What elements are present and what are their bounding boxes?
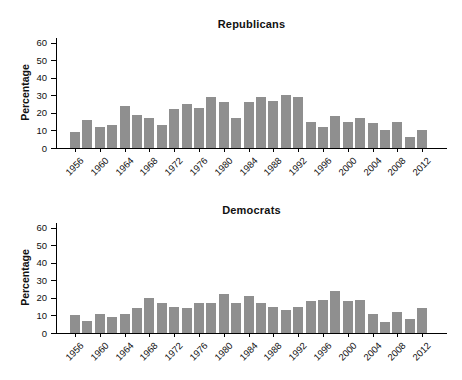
y-tick-label: 0 — [15, 328, 47, 340]
bar-1994 — [306, 301, 316, 333]
y-tick-mark — [51, 228, 56, 229]
bar-1996 — [318, 300, 328, 333]
bar-1964 — [120, 314, 130, 333]
bar-2000 — [343, 301, 353, 333]
x-axis-line — [56, 333, 447, 334]
x-tick-mark — [224, 333, 225, 337]
y-axis-line — [56, 223, 57, 333]
y-tick-mark — [51, 263, 56, 264]
x-tick-mark — [199, 333, 200, 337]
bar-1976 — [194, 303, 204, 333]
bar-1968 — [144, 298, 154, 333]
bar-1990 — [281, 310, 291, 333]
y-tick-label: 10 — [15, 310, 47, 322]
y-tick-mark — [51, 298, 56, 299]
bar-2010 — [405, 319, 415, 333]
x-tick-mark — [149, 333, 150, 337]
bar-1998 — [330, 291, 340, 333]
x-tick-mark — [397, 333, 398, 337]
y-tick-mark — [51, 315, 56, 316]
x-tick-label: 2012 — [401, 340, 434, 373]
bar-1980 — [219, 294, 229, 333]
bar-2004 — [368, 314, 378, 333]
y-tick-mark — [51, 280, 56, 281]
x-tick-mark — [348, 333, 349, 337]
bar-1966 — [132, 308, 142, 333]
x-tick-mark — [174, 333, 175, 337]
x-tick-mark — [75, 333, 76, 337]
bar-2008 — [392, 312, 402, 333]
bar-1972 — [169, 307, 179, 333]
y-tick-label: 60 — [15, 222, 47, 234]
bar-1970 — [157, 303, 167, 333]
bar-1958 — [82, 321, 92, 333]
bar-chart-figure: Republicans Percentage 01020304050601956… — [0, 0, 462, 380]
bar-1978 — [206, 303, 216, 333]
x-tick-mark — [100, 333, 101, 337]
x-tick-mark — [125, 333, 126, 337]
bar-1986 — [256, 303, 266, 333]
x-tick-mark — [323, 333, 324, 337]
x-tick-mark — [273, 333, 274, 337]
bar-2006 — [380, 322, 390, 333]
bar-1984 — [244, 296, 254, 333]
bar-1974 — [182, 308, 192, 333]
x-tick-mark — [373, 333, 374, 337]
bar-1982 — [231, 303, 241, 333]
bar-2002 — [355, 300, 365, 333]
bar-1992 — [293, 307, 303, 333]
plot-area-democrats: 0102030405060195619601964196819721976198… — [56, 221, 447, 333]
y-tick-label: 20 — [15, 292, 47, 304]
bar-1962 — [107, 317, 117, 333]
chart-title-democrats: Democrats — [56, 204, 447, 216]
y-tick-label: 40 — [15, 257, 47, 269]
bar-2012 — [417, 308, 427, 333]
y-tick-label: 50 — [15, 240, 47, 252]
bar-1956 — [70, 315, 80, 333]
y-tick-mark — [51, 333, 56, 334]
bar-1988 — [268, 307, 278, 333]
x-tick-mark — [249, 333, 250, 337]
y-tick-mark — [51, 245, 56, 246]
bar-1960 — [95, 314, 105, 333]
x-tick-mark — [298, 333, 299, 337]
chart-panel-democrats: Democrats Percentage 0102030405060195619… — [0, 0, 462, 380]
x-tick-mark — [422, 333, 423, 337]
y-tick-label: 30 — [15, 275, 47, 287]
